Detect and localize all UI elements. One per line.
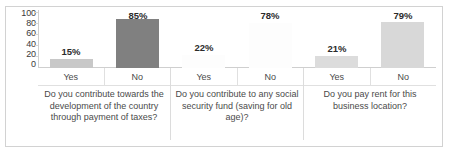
y-tick-40: 40 <box>6 39 36 49</box>
y-tick-100: 100 <box>6 8 36 18</box>
y-axis-tick-labels: 100 80 60 40 20 0 <box>6 8 36 70</box>
bar-label-g1-yes: 15% <box>46 46 96 57</box>
bar-chart: 100 80 60 40 20 0 15% 85% 22% 78% 21% 79… <box>0 0 449 152</box>
group-divider-1 <box>170 68 171 140</box>
category-g2-no: No <box>238 68 305 86</box>
y-tick-0: 0 <box>6 59 36 69</box>
bar-g3-yes <box>315 56 358 68</box>
category-g2-yes: Yes <box>171 68 238 86</box>
y-tick-80: 80 <box>6 18 36 28</box>
category-g3-no: No <box>371 68 437 86</box>
bar-g1-yes <box>50 59 93 68</box>
bar-g2-yes <box>182 55 225 68</box>
question-group-2: Do you contribute to any social security… <box>171 86 304 140</box>
category-axis-row: Yes No Yes No Yes No <box>38 68 436 86</box>
y-tick-60: 60 <box>6 28 36 38</box>
plot-area: 15% 85% 22% 78% 21% 79% <box>38 10 436 68</box>
category-g3-yes: Yes <box>304 68 371 86</box>
category-g1-no: No <box>105 68 172 86</box>
bar-g3-no <box>381 22 424 68</box>
bar-label-g1-no: 85% <box>113 10 163 21</box>
bar-label-g2-no: 78% <box>245 10 295 21</box>
question-axis-row: Do you contribute towards the developmen… <box>38 86 436 140</box>
cropped-chart-title <box>0 0 449 5</box>
question-group-1: Do you contribute towards the developmen… <box>38 86 171 140</box>
question-group-3: Do you pay rent for this business locati… <box>304 86 436 140</box>
bar-label-g3-no: 79% <box>378 10 428 21</box>
category-g1-yes: Yes <box>38 68 105 86</box>
bar-label-g2-yes: 22% <box>179 42 229 53</box>
y-tick-20: 20 <box>6 49 36 59</box>
group-divider-2 <box>303 68 304 140</box>
bar-label-g3-yes: 21% <box>312 43 362 54</box>
bar-g2-no <box>249 23 292 68</box>
bar-g1-no <box>116 19 159 68</box>
